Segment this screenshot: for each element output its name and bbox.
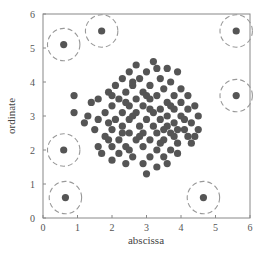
data-point [136, 75, 143, 82]
data-point [153, 163, 160, 170]
data-point [133, 61, 140, 68]
data-point [108, 157, 115, 164]
data-point [136, 133, 143, 140]
data-point [115, 150, 122, 157]
data-point [112, 116, 119, 123]
data-cluster [70, 58, 201, 177]
x-tick-label: 4 [179, 222, 184, 233]
x-tick-label: 3 [144, 222, 149, 233]
data-point [191, 102, 198, 109]
data-point [153, 146, 160, 153]
data-point [157, 106, 164, 113]
y-tick-label: 1 [30, 179, 35, 190]
data-point [108, 92, 115, 99]
data-point [146, 153, 153, 160]
data-point [181, 126, 188, 133]
data-point [195, 112, 202, 119]
data-point [129, 153, 136, 160]
data-point [157, 75, 164, 82]
x-tick-label: 5 [213, 222, 218, 233]
y-tick-label: 2 [30, 145, 35, 156]
data-point [95, 95, 102, 102]
data-point [115, 95, 122, 102]
data-point [171, 133, 178, 140]
data-point [122, 160, 129, 167]
data-point [164, 112, 171, 119]
data-point [167, 102, 174, 109]
data-point [157, 140, 164, 147]
data-point [129, 78, 136, 85]
outlier-point [60, 146, 67, 153]
data-point [105, 119, 112, 126]
data-point [95, 116, 102, 123]
data-point [98, 150, 105, 157]
outlier-point [200, 194, 207, 201]
y-tick-label: 3 [30, 111, 35, 122]
data-point [184, 92, 191, 99]
data-point [105, 136, 112, 143]
data-point [146, 106, 153, 113]
data-point [70, 109, 77, 116]
x-tick-label: 1 [75, 222, 80, 233]
y-tick-label: 5 [30, 43, 35, 54]
data-point [160, 153, 167, 160]
scatter-chart: 0123456 0123456 abscissa ordinate [0, 0, 264, 256]
data-point [146, 82, 153, 89]
data-point [139, 102, 146, 109]
outlier-point [62, 194, 69, 201]
data-point [174, 150, 181, 157]
data-point [122, 89, 129, 96]
data-point [195, 126, 202, 133]
data-point [88, 99, 95, 106]
data-point [150, 123, 157, 130]
data-point [160, 85, 167, 92]
data-point [146, 136, 153, 143]
data-point [188, 119, 195, 126]
data-point [139, 143, 146, 150]
data-point [167, 78, 174, 85]
data-point [126, 129, 133, 136]
data-point [70, 92, 77, 99]
data-point [177, 99, 184, 106]
x-tick-label: 2 [110, 222, 115, 233]
data-point [171, 119, 178, 126]
x-tick-label: 0 [41, 222, 46, 233]
outlier-point [60, 41, 67, 48]
data-point [167, 146, 174, 153]
outlier-point [98, 27, 105, 34]
data-point [108, 102, 115, 109]
data-point [91, 126, 98, 133]
data-point [184, 133, 191, 140]
data-point [112, 82, 119, 89]
y-axis-label: ordinate [5, 98, 17, 134]
data-point [129, 112, 136, 119]
outlier-point [233, 27, 240, 34]
data-point [119, 123, 126, 130]
data-point [143, 116, 150, 123]
data-point [84, 112, 91, 119]
data-point [153, 92, 160, 99]
x-axis-label: abscissa [128, 234, 164, 246]
data-point [160, 126, 167, 133]
data-point [119, 109, 126, 116]
data-point [174, 126, 181, 133]
data-point [143, 68, 150, 75]
data-point [126, 68, 133, 75]
y-tick-label: 6 [30, 9, 35, 20]
data-point [157, 116, 164, 123]
data-point [164, 65, 171, 72]
data-point [181, 116, 188, 123]
data-point [139, 160, 146, 167]
data-point [143, 170, 150, 177]
data-point [150, 58, 157, 65]
data-point [184, 106, 191, 113]
data-point [171, 92, 178, 99]
data-point [108, 126, 115, 133]
data-point [153, 129, 160, 136]
data-point [95, 143, 102, 150]
data-point [122, 99, 129, 106]
data-point [153, 65, 160, 72]
data-point [177, 85, 184, 92]
data-point [174, 140, 181, 147]
y-axis-ticks: 0123456 [30, 9, 46, 224]
